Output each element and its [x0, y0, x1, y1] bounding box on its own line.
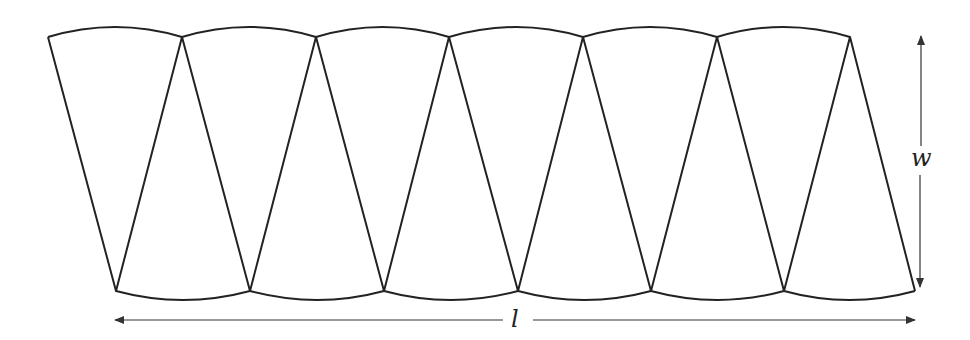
- top-arc: [316, 27, 449, 37]
- bottom-arc: [250, 291, 384, 300]
- top-arc: [583, 27, 717, 37]
- bottom-arc: [518, 291, 651, 300]
- top-arc: [182, 27, 316, 37]
- bottom-arc: [784, 291, 915, 300]
- zigzag-edges: [48, 37, 915, 291]
- bottom-arc: [651, 291, 784, 300]
- sector-strip-diagram: [0, 0, 970, 340]
- width-label: w: [911, 146, 932, 170]
- top-arc: [717, 27, 850, 37]
- dimension-arrows: [115, 36, 921, 320]
- length-label: l: [511, 307, 519, 331]
- top-arc: [449, 27, 583, 37]
- top-arc: [48, 27, 182, 37]
- sector-shapes: [48, 27, 915, 300]
- bottom-arc: [116, 291, 250, 300]
- bottom-arc: [384, 291, 518, 300]
